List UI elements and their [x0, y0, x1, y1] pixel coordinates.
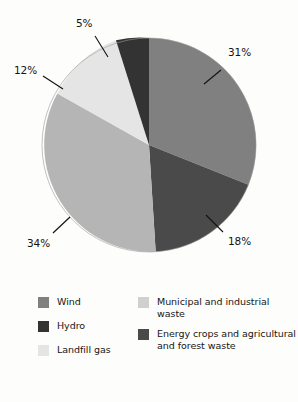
- legend-column-left: Wind Hydro Landfill gas: [38, 296, 138, 368]
- legend-label-energy-crops: Energy crops and agricultural and forest…: [157, 328, 296, 351]
- pie-label-landfill-gas: 12%: [14, 64, 37, 76]
- pie-label-wind: 31%: [228, 46, 251, 58]
- pie-chart-figure: 31% 18% 34% 12% 5% Wind Hydro Landfill g…: [0, 0, 298, 402]
- legend-swatch-landfill-gas: [38, 345, 49, 356]
- legend-item-wind[interactable]: Wind: [38, 296, 138, 310]
- pie-label-hydro: 5%: [76, 17, 92, 29]
- legend-item-energy-crops[interactable]: Energy crops and agricultural and forest…: [138, 328, 296, 351]
- legend-swatch-energy-crops: [138, 329, 149, 340]
- pie-label-municipal-waste: 34%: [27, 237, 50, 249]
- legend-item-hydro[interactable]: Hydro: [38, 320, 138, 334]
- legend-column-right: Municipal and industrial waste Energy cr…: [138, 296, 296, 360]
- leader-line-municipal-waste: [53, 217, 70, 233]
- pie-chart-plot-area: 31% 18% 34% 12% 5%: [0, 0, 298, 290]
- legend-label-landfill-gas: Landfill gas: [57, 344, 111, 356]
- legend-label-wind: Wind: [57, 296, 81, 308]
- chart-legend: Wind Hydro Landfill gas Municipal and in…: [0, 296, 298, 402]
- legend-label-hydro: Hydro: [57, 320, 85, 332]
- legend-swatch-municipal-waste: [138, 297, 149, 308]
- pie-label-energy-crops: 18%: [228, 235, 251, 247]
- legend-swatch-hydro: [38, 321, 49, 332]
- legend-item-municipal-waste[interactable]: Municipal and industrial waste: [138, 296, 296, 319]
- legend-label-municipal-waste: Municipal and industrial waste: [157, 296, 296, 319]
- legend-swatch-wind: [38, 297, 49, 308]
- legend-item-landfill-gas[interactable]: Landfill gas: [38, 344, 138, 358]
- leader-line-landfill-gas: [43, 76, 63, 89]
